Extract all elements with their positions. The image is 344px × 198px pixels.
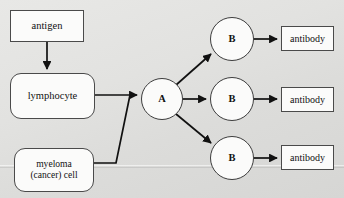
node-lymphocyte-label: lymphocyte xyxy=(28,90,78,102)
node-cell-b-top-label: B xyxy=(228,33,235,45)
node-antibody-top-label: antibody xyxy=(290,33,325,44)
node-cell-b-bot-label: B xyxy=(228,152,235,164)
edge-a-to-b-bot xyxy=(176,114,211,143)
edge-a-to-b-top xyxy=(176,54,211,85)
node-cell-a-label: A xyxy=(158,93,166,105)
node-lymphocyte[interactable]: lymphocyte xyxy=(10,73,95,119)
node-cell-a[interactable]: A xyxy=(141,78,183,120)
node-myeloma-label-line2: (cancer) cell xyxy=(30,170,77,181)
node-antibody-top[interactable]: antibody xyxy=(281,26,334,51)
node-cell-b-mid[interactable]: B xyxy=(210,77,254,121)
node-antibody-mid[interactable]: antibody xyxy=(281,87,334,112)
node-myeloma-label-line1: myeloma xyxy=(36,159,72,170)
node-myeloma[interactable]: myeloma (cancer) cell xyxy=(14,148,94,192)
node-cell-b-bot[interactable]: B xyxy=(210,136,254,180)
node-antibody-bot[interactable]: antibody xyxy=(281,145,334,170)
node-antigen-label: antigen xyxy=(32,20,63,32)
diagram-canvas: antigen lymphocyte myeloma (cancer) cell… xyxy=(0,0,344,198)
node-cell-b-mid-label: B xyxy=(228,93,235,105)
node-cell-b-top[interactable]: B xyxy=(210,17,254,61)
node-antibody-bot-label: antibody xyxy=(290,152,325,163)
node-antigen[interactable]: antigen xyxy=(10,10,84,42)
edge-myeloma-to-a xyxy=(94,95,130,163)
node-antibody-mid-label: antibody xyxy=(290,94,325,105)
